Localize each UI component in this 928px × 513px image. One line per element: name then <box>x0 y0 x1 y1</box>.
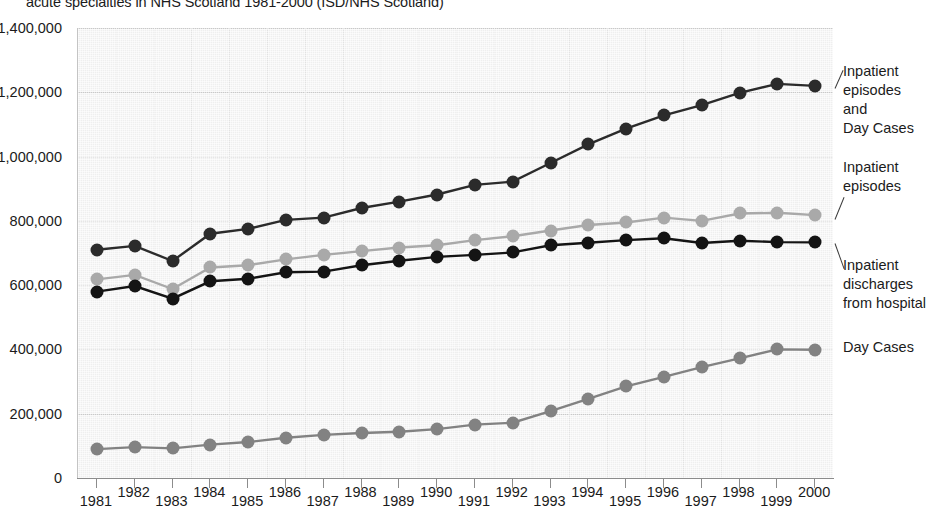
data-point-marker <box>242 436 255 449</box>
y-axis-tick-label: 200,000 <box>10 406 62 422</box>
data-point-marker <box>204 227 217 240</box>
data-point-marker <box>733 352 746 365</box>
data-point-marker <box>582 236 595 249</box>
data-point-marker <box>431 188 444 201</box>
data-point-marker <box>809 79 822 92</box>
data-point-marker <box>242 272 255 285</box>
series-lines <box>78 28 834 478</box>
y-axis-tick-label: 1,400,000 <box>0 20 62 36</box>
data-point-marker <box>582 138 595 151</box>
x-axis-tick-mark <box>247 479 248 488</box>
data-point-marker <box>317 248 330 261</box>
data-point-marker <box>695 214 708 227</box>
data-point-marker <box>468 248 481 261</box>
data-point-marker <box>733 86 746 99</box>
data-point-marker <box>506 246 519 259</box>
x-axis-tick-label: 1995 <box>609 493 641 509</box>
data-point-marker <box>809 343 822 356</box>
y-axis-tick-label: 800,000 <box>10 213 62 229</box>
data-point-marker <box>657 370 670 383</box>
data-point-marker <box>90 273 103 286</box>
data-point-marker <box>393 425 406 438</box>
data-point-marker <box>695 237 708 250</box>
data-point-marker <box>393 241 406 254</box>
data-point-marker <box>657 232 670 245</box>
data-point-marker <box>544 224 557 237</box>
plot-area <box>77 28 833 478</box>
x-axis-tick-label: 1989 <box>382 493 414 509</box>
data-point-marker <box>695 99 708 112</box>
data-point-marker <box>204 438 217 451</box>
data-point-marker <box>355 259 368 272</box>
data-point-marker <box>809 236 822 249</box>
data-point-marker <box>506 175 519 188</box>
y-axis-tick-label: 600,000 <box>10 277 62 293</box>
x-axis-tick-label: 1985 <box>231 493 263 509</box>
data-point-marker <box>90 285 103 298</box>
data-point-marker <box>657 211 670 224</box>
data-point-marker <box>204 261 217 274</box>
data-point-marker <box>242 259 255 272</box>
chart-title: acute specialties in NHS Scotland 1981-2… <box>26 0 444 10</box>
legend-label-1: Inpatient episodes and Day Cases <box>843 62 928 138</box>
data-point-marker <box>128 441 141 454</box>
data-point-marker <box>733 234 746 247</box>
data-point-marker <box>620 216 633 229</box>
x-axis-tick-label: 1998 <box>722 484 754 500</box>
x-axis-tick-mark <box>625 479 626 488</box>
data-point-marker <box>166 255 179 268</box>
x-axis-tick-label: 1988 <box>344 484 376 500</box>
data-point-marker <box>468 234 481 247</box>
x-axis-tick-label: 1999 <box>760 493 792 509</box>
y-axis-tick-label: 1,200,000 <box>0 84 62 100</box>
x-axis-tick-label: 1981 <box>80 493 112 509</box>
x-axis-tick-mark <box>701 479 702 488</box>
data-point-marker <box>90 443 103 456</box>
chart-page: acute specialties in NHS Scotland 1981-2… <box>0 0 928 513</box>
x-axis-tick-label: 1991 <box>458 493 490 509</box>
x-axis-tick-label: 1983 <box>155 493 187 509</box>
data-point-marker <box>355 202 368 215</box>
data-point-marker <box>355 245 368 258</box>
legend-leader-line-2 <box>835 197 845 219</box>
data-point-marker <box>166 442 179 455</box>
x-axis-tick-label: 1994 <box>571 484 603 500</box>
y-axis-tick-label: 0 <box>54 470 62 486</box>
data-point-marker <box>657 109 670 122</box>
x-axis-tick-mark <box>323 479 324 488</box>
data-point-marker <box>279 266 292 279</box>
data-point-marker <box>809 209 822 222</box>
data-point-marker <box>506 230 519 243</box>
data-point-marker <box>544 239 557 252</box>
data-point-marker <box>393 195 406 208</box>
x-axis-tick-label: 1992 <box>496 484 528 500</box>
data-point-marker <box>620 234 633 247</box>
data-point-marker <box>279 213 292 226</box>
data-point-marker <box>582 392 595 405</box>
data-point-marker <box>771 206 784 219</box>
x-axis-tick-label: 1986 <box>269 484 301 500</box>
data-point-marker <box>468 418 481 431</box>
data-point-marker <box>242 222 255 235</box>
data-point-marker <box>695 361 708 374</box>
data-point-marker <box>317 265 330 278</box>
x-axis-tick-mark <box>172 479 173 488</box>
data-point-marker <box>506 416 519 429</box>
legend-label-4: Day Cases <box>843 338 914 357</box>
data-point-marker <box>468 178 481 191</box>
legend-label-2: Inpatient episodes <box>843 158 901 196</box>
data-point-marker <box>279 431 292 444</box>
data-point-marker <box>733 207 746 220</box>
y-axis-tick-label: 1,000,000 <box>0 149 62 165</box>
legend-label-3: Inpatient discharges from hospital <box>843 256 926 313</box>
data-point-marker <box>544 157 557 170</box>
x-axis-tick-label: 1982 <box>118 484 150 500</box>
data-point-marker <box>431 423 444 436</box>
x-axis-tick-label: 1987 <box>307 493 339 509</box>
x-axis-tick-label: 1984 <box>193 484 225 500</box>
data-point-marker <box>771 236 784 249</box>
x-axis-tick-mark <box>550 479 551 488</box>
data-point-marker <box>317 428 330 441</box>
data-point-marker <box>90 243 103 256</box>
data-point-marker <box>771 343 784 356</box>
